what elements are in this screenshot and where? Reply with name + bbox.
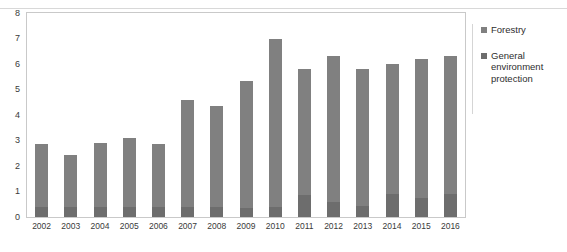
y-axis-tick-label: 8 <box>15 9 20 18</box>
legend-swatch-icon <box>481 27 487 33</box>
bar-segment-forestry <box>64 155 77 207</box>
bar-segment-forestry <box>356 69 369 205</box>
bar-segment-general-environment-protection <box>386 194 399 217</box>
y-axis: 012345678 <box>0 0 26 230</box>
bar-group <box>269 39 282 217</box>
y-axis-tick-label: 0 <box>15 213 20 222</box>
bar-segment-general-environment-protection <box>240 208 253 217</box>
legend-item[interactable]: General environment protection <box>481 50 564 85</box>
bar-group <box>94 143 107 217</box>
legend-item[interactable]: Forestry <box>481 24 564 36</box>
y-axis-tick-label: 5 <box>15 85 20 94</box>
bar-group <box>298 69 311 217</box>
y-axis-tick-label: 3 <box>15 136 20 145</box>
bar-segment-general-environment-protection <box>181 207 194 217</box>
bar-segment-forestry <box>181 100 194 207</box>
bar-segment-general-environment-protection <box>35 207 48 217</box>
legend-swatch-icon <box>481 53 487 59</box>
y-axis-tick-label: 7 <box>15 34 20 43</box>
bar-segment-general-environment-protection <box>64 207 77 217</box>
bar-segment-forestry <box>298 69 311 195</box>
bar-segment-forestry <box>327 56 340 201</box>
bar-segment-general-environment-protection <box>444 194 457 217</box>
bar-segment-forestry <box>240 81 253 209</box>
bar-segment-forestry <box>386 64 399 194</box>
y-axis-tick-label: 6 <box>15 60 20 69</box>
bar-segment-general-environment-protection <box>415 198 428 217</box>
bar-group <box>210 106 223 217</box>
bar-segment-forestry <box>35 144 48 206</box>
y-axis-tick-label: 1 <box>15 187 20 196</box>
bar-group <box>444 56 457 217</box>
plot-area <box>26 12 466 218</box>
bar-segment-general-environment-protection <box>210 207 223 217</box>
bars-layer <box>27 13 465 217</box>
bar-segment-general-environment-protection <box>356 206 369 217</box>
bar-segment-forestry <box>210 106 223 207</box>
bar-chart: 012345678 200220032004200520062007200820… <box>0 0 567 252</box>
x-axis-tick-label: 2016 <box>433 221 467 231</box>
bar-segment-forestry <box>94 143 107 207</box>
legend-item-label: General environment protection <box>491 50 564 85</box>
bar-segment-forestry <box>444 56 457 194</box>
bar-group <box>240 81 253 217</box>
bar-group <box>152 144 165 217</box>
bar-segment-general-environment-protection <box>152 207 165 217</box>
bar-group <box>327 56 340 217</box>
bar-segment-general-environment-protection <box>94 207 107 217</box>
bar-group <box>35 144 48 217</box>
bar-group <box>181 100 194 217</box>
bar-group <box>356 69 369 217</box>
bar-segment-general-environment-protection <box>123 207 136 217</box>
bar-segment-forestry <box>269 39 282 207</box>
bar-group <box>64 155 77 217</box>
bar-group <box>123 138 136 217</box>
bar-segment-forestry <box>152 144 165 206</box>
x-axis: 2002200320042005200620072008200920102011… <box>26 221 466 239</box>
bar-segment-forestry <box>123 138 136 207</box>
bar-segment-forestry <box>415 59 428 198</box>
bar-group <box>415 59 428 217</box>
y-axis-tick-label: 4 <box>15 111 20 120</box>
chart-legend: ForestryGeneral environment protection <box>472 24 564 114</box>
bar-group <box>386 64 399 217</box>
bar-segment-general-environment-protection <box>269 207 282 217</box>
bar-segment-general-environment-protection <box>327 202 340 217</box>
legend-item-label: Forestry <box>491 24 526 36</box>
bar-segment-general-environment-protection <box>298 195 311 217</box>
y-axis-tick-label: 2 <box>15 162 20 171</box>
